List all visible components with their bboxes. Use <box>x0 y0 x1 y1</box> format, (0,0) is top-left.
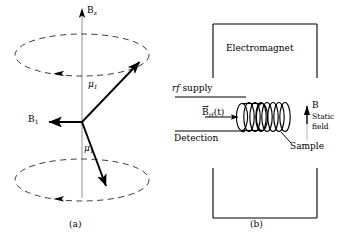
precession-direction-arrow-top <box>54 71 65 76</box>
rf-coil <box>244 103 290 132</box>
rf-supply-label: rf supply <box>172 84 212 93</box>
panel-b-graphics <box>175 24 317 218</box>
mu-label-upper: μ1 <box>88 80 98 90</box>
static-field-b-label: B <box>312 101 319 110</box>
panel-b-caption: (b) <box>250 220 263 229</box>
coil-turn <box>244 103 254 132</box>
detection-label: Detection <box>174 134 218 143</box>
b1-label: B1 <box>28 115 38 125</box>
coil-turn <box>256 103 266 132</box>
mu-vector-upper <box>82 62 140 122</box>
electromagnet-lower-pole <box>213 168 317 218</box>
coil-turn <box>262 103 272 132</box>
static-field-label-line1: Static <box>312 113 334 121</box>
mu-label-lower: μ1 <box>84 144 94 154</box>
mu-vector-lower <box>82 122 106 186</box>
figure-canvas: Bz B1 μ1 μ1 (a) Electromagnet rf supply … <box>0 0 346 251</box>
brf-label: →Brf(t) <box>202 108 224 118</box>
figure-svg <box>0 0 346 251</box>
coil-turn <box>280 103 290 132</box>
static-field-label-line2: field <box>312 123 329 131</box>
panel-a-graphics <box>15 8 149 202</box>
coil-turn <box>250 103 260 132</box>
sample-label: Sample <box>290 142 324 151</box>
coil-turn <box>268 103 278 132</box>
sample-cylinder-left-cap <box>236 104 247 131</box>
coil-turn <box>274 103 284 132</box>
precession-direction-arrow-bottom <box>54 196 65 201</box>
panel-a-caption: (a) <box>69 220 81 229</box>
bz-axis-label: Bz <box>87 6 97 16</box>
electromagnet-label: Electromagnet <box>226 44 294 53</box>
